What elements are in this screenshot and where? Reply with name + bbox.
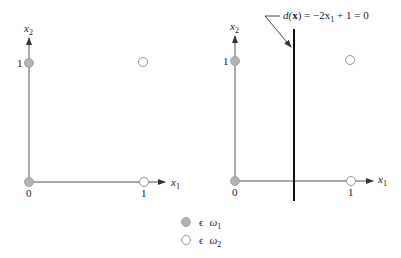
left-panel: x2 x1 1 0 1 xyxy=(17,22,180,199)
class1-point-0-1 xyxy=(25,59,34,68)
right-panel: x2 x1 1 0 1 d(x) = −2x1 + 1 = 0 xyxy=(223,9,387,201)
left-origin-label: 0 xyxy=(26,187,32,199)
class2-point-1-0 xyxy=(347,177,356,186)
left-x-tick-label: 1 xyxy=(141,187,147,199)
right-y-axis-label: x2 xyxy=(229,20,239,35)
left-x-axis-label: x1 xyxy=(170,176,180,191)
legend: ϵω1 ϵω2 xyxy=(182,216,222,249)
legend-class1-marker xyxy=(182,218,191,227)
legend-class2-label: ϵω2 xyxy=(199,234,221,249)
decision-boundary-label: d(x) = −2x1 + 1 = 0 xyxy=(283,9,369,24)
left-y-tick-label: 1 xyxy=(17,57,23,69)
right-x-axis-label: x1 xyxy=(377,173,387,188)
class1-point-0-0 xyxy=(231,177,240,186)
class1-point-0-1 xyxy=(231,57,240,66)
class2-point-1-1 xyxy=(346,56,355,65)
figure: x2 x1 1 0 1 x2 x1 1 0 1 d(x) = −2x1 + 1 … xyxy=(0,0,401,258)
right-origin-label: 0 xyxy=(232,186,238,198)
class2-point-1-0 xyxy=(140,178,149,187)
left-y-axis-label: x2 xyxy=(23,22,33,37)
legend-class2-marker xyxy=(182,236,191,245)
right-y-tick-label: 1 xyxy=(223,55,229,67)
right-x-tick-label: 1 xyxy=(348,186,354,198)
class1-point-0-0 xyxy=(25,178,34,187)
class2-point-1-1 xyxy=(139,58,148,67)
legend-class1-label: ϵω1 xyxy=(199,216,221,231)
